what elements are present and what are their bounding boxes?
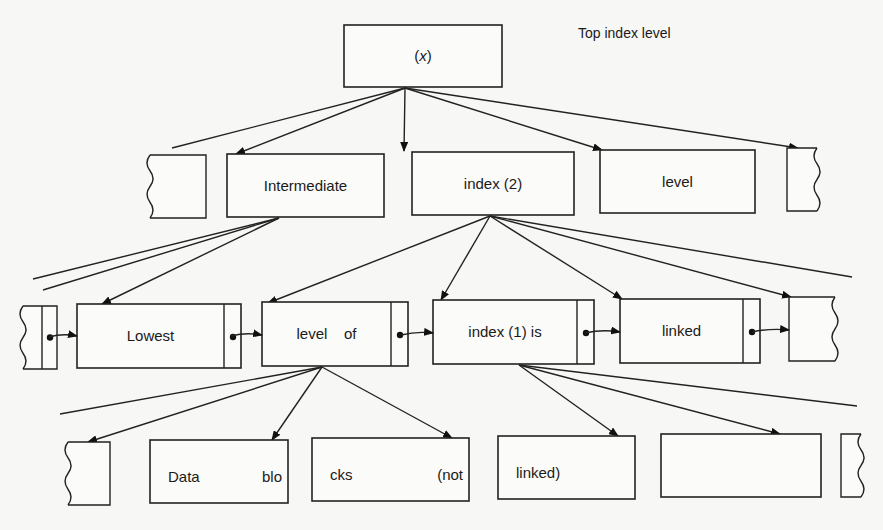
pointer-arrow [405,88,602,150]
pointer-line-offscreen [60,367,322,414]
index-block: level [600,150,755,213]
pointer-arrow [322,367,452,438]
b-tree-index-diagram: (x)Intermediateindex (2)levelLowestlevel… [0,0,883,530]
block-label: level [662,173,693,190]
block-label-left: cks [330,466,353,483]
partial-block-right [841,434,864,497]
index-block: Lowest [77,304,241,368]
block-label: (x) [414,47,432,64]
pointer-arrow [88,367,322,442]
block-label: index (1) is [468,323,541,340]
block-label-right: blo [262,468,282,485]
index-block [661,434,821,497]
pointer-arrow [236,88,405,154]
index-block: linked [620,299,760,363]
index-block: (x) [344,25,502,87]
partial-block-left [65,442,110,505]
top-index-level-caption: Top index level [578,25,671,41]
index-block: linked) [498,436,635,499]
index-block: cks(not [312,438,469,501]
block-label: level of [296,325,357,342]
partial-block-right [787,148,820,211]
pointer-arrow [102,218,279,304]
block-label-left: Data [168,468,200,485]
partial-block-left [147,155,206,218]
index-block: Datablo [150,440,288,503]
index-block: index (2) [412,152,574,215]
block-label: Lowest [127,327,175,344]
index-block: level of [262,302,408,366]
partial-block-right [789,297,838,361]
pointer-arrow [441,216,490,300]
pointer-line-offscreen [33,218,279,279]
index-block: index (1) is [433,300,594,364]
pointer-arrow [519,365,780,434]
block-label-right: (not [437,466,464,483]
link-pointer-dot [47,334,53,340]
partial-block-left [20,306,57,369]
tree-edges [33,88,857,442]
pointer-line-offscreen [519,365,857,406]
intermediate-index-level: Intermediateindex (2)level [147,148,820,218]
index-block: Intermediate [227,154,384,217]
block-border [661,434,821,497]
block-label: Intermediate [264,177,347,194]
pointer-line-offscreen [490,216,852,277]
block-label-left: linked) [516,464,560,481]
pointer-arrow [405,88,798,148]
pointer-arrow [490,216,622,299]
pointer-line-offscreen [43,218,279,290]
pointer-line-offscreen [172,88,405,148]
pointer-arrow [490,216,791,297]
pointer-arrow [272,367,322,440]
data-blocks-level: Datablocks(notlinked) [65,434,864,505]
pointer-arrow [404,88,405,151]
top-index-level: (x) [344,25,502,87]
block-label: linked [662,322,701,339]
pointer-arrow [268,216,490,303]
block-label: index (2) [464,175,522,192]
